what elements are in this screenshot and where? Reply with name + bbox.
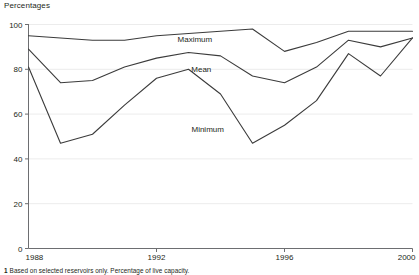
series-labels: MaximumMeanMinimum: [178, 35, 225, 134]
reservoir-levels-chart: Percentages 020406080100 198819921996200…: [0, 0, 419, 275]
gridlines: [29, 25, 413, 204]
footnote-marker: 1: [4, 267, 8, 274]
y-tick-label-40: 40: [14, 155, 23, 164]
series-label-maximum: Maximum: [178, 35, 213, 44]
y-axis: 020406080100: [9, 21, 28, 254]
x-tick-label-1988: 1988: [26, 253, 44, 262]
x-axis: 1988199219962000: [26, 249, 417, 262]
y-tick-label-20: 20: [14, 200, 23, 209]
chart-footnote: 1Based on selected reservoirs only. Perc…: [4, 267, 189, 275]
y-tick-label-60: 60: [14, 110, 23, 119]
y-tick-label-100: 100: [9, 21, 23, 30]
series-label-minimum: Minimum: [191, 125, 224, 134]
footnote-text: Based on selected reservoirs only. Perce…: [10, 267, 190, 274]
y-tick-label-80: 80: [14, 65, 23, 74]
series-label-mean: Mean: [191, 65, 211, 74]
x-tick-label-2000: 2000: [398, 253, 416, 262]
chart-plot-area: 020406080100 1988199219962000 MaximumMea…: [0, 0, 419, 275]
x-tick-label-1992: 1992: [148, 253, 166, 262]
y-tick-label-0: 0: [18, 245, 23, 254]
series-line-mean: [29, 38, 413, 83]
x-tick-label-1996: 1996: [276, 253, 294, 262]
series-line-maximum: [29, 29, 413, 51]
